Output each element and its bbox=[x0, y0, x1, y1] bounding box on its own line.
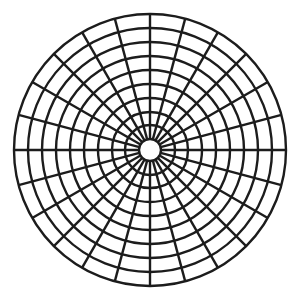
polar-grid bbox=[0, 0, 300, 299]
hub-circle bbox=[139, 139, 161, 161]
polar-grid-diagram bbox=[0, 0, 300, 299]
